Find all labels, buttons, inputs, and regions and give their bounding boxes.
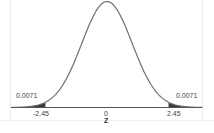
tick-label-right: 2.45 <box>167 110 181 117</box>
tick-label-center: 0 <box>104 110 108 117</box>
tick-label-left: -2.45 <box>33 110 49 117</box>
right-tail-area-label: 0.0071 <box>176 92 197 99</box>
density-curve <box>12 2 203 108</box>
x-axis-title: Z <box>104 117 108 124</box>
left-tail-area-label: 0.0071 <box>16 92 37 99</box>
